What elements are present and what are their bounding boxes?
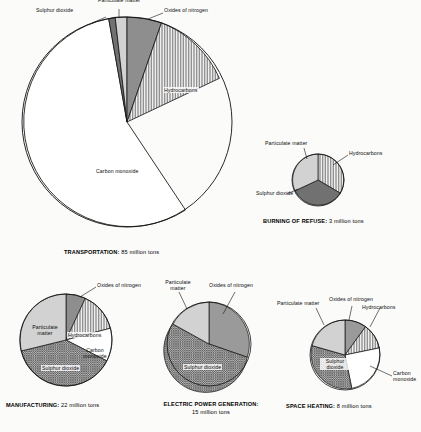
- caption-heating-title: SPACE HEATING:: [286, 403, 335, 409]
- label-carbon-monoxide: Carbon monoxide: [96, 168, 138, 174]
- label-oxides-of-nitrogen: Oxides of nitrogen: [209, 282, 253, 288]
- label-particulate-matter: Particulate matter: [277, 300, 319, 306]
- caption-burning-of-refuse: BURNING OF REFUSE: 3 million tons: [263, 218, 364, 224]
- leader-oxides-of-nitrogen: [80, 287, 96, 297]
- label-carbon-monoxide-line2: monoxide: [393, 376, 416, 382]
- leader-oxides-of-nitrogen: [349, 306, 352, 320]
- caption-burning-amount: 3 million tons: [329, 218, 364, 224]
- label-sulphur-dioxide: Sulphur dioxide: [320, 358, 350, 370]
- chart-electric-power-generation: Particulate matter Oxides of nitrogen Su…: [165, 300, 253, 388]
- leader-hydrocarbons: [333, 155, 348, 165]
- caption-burning-title: BURNING OF REFUSE:: [263, 218, 327, 224]
- label-sulphur-dioxide-line2: dioxide: [326, 364, 343, 370]
- transportation-pie: [20, 15, 234, 229]
- chart-manufacturing: Oxides of nitrogen Particulate matter Hy…: [18, 292, 114, 388]
- space-heating-pie: [308, 318, 382, 392]
- leader-hydrocarbons: [370, 308, 380, 327]
- caption-manufacturing-title: MANUFACTURING:: [6, 402, 59, 408]
- caption-transportation: TRANSPORTATION: 85 million tons: [64, 249, 159, 255]
- label-oxides-of-nitrogen: Oxides of nitrogen: [164, 7, 208, 13]
- label-hydrocarbons: Hydrocarbons: [362, 304, 396, 310]
- label-particulate-matter-line1: Particulate: [165, 279, 191, 285]
- label-particulate-matter: Particulate matter: [25, 324, 65, 336]
- manufacturing-pie: [18, 292, 114, 388]
- label-carbon-monoxide-line1: Carbon: [393, 370, 411, 376]
- label-particulate-matter: Particulate matter: [98, 0, 140, 3]
- caption-power-amount: 15 million tons: [192, 409, 230, 415]
- leader-particulate-matter: [179, 292, 187, 309]
- label-carbon-monoxide: Carbon monoxide: [80, 347, 110, 359]
- label-sulphur-dioxide: Sulphur dioxide: [36, 7, 73, 13]
- label-particulate-matter: Particulate matter: [265, 140, 307, 146]
- caption-transportation-amount: 85 million tons: [121, 249, 159, 255]
- label-sulphur-dioxide-line1: Sulphur: [326, 358, 345, 364]
- label-particulate-matter: Particulate matter: [156, 279, 200, 291]
- caption-power-title: ELECTRIC POWER GENERATION:: [164, 401, 259, 407]
- burning-of-refuse-pie: [290, 152, 346, 208]
- label-particulate-matter-line2: matter: [170, 285, 185, 291]
- chart-burning-of-refuse: Particulate matter Hydrocarbons Sulphur …: [290, 152, 346, 208]
- chart-transportation: Sulphur dioxide Particulate matter Oxide…: [20, 15, 234, 229]
- label-carbon-monoxide-line1: Carbon: [86, 347, 104, 353]
- caption-manufacturing: MANUFACTURING: 22 million tons: [6, 402, 99, 408]
- label-sulphur-dioxide: Sulphur dioxide: [256, 190, 293, 196]
- electric-power-generation-pie: [165, 300, 253, 388]
- label-hydrocarbons: Hydrocarbons: [163, 87, 199, 93]
- label-oxides-of-nitrogen: Oxides of nitrogen: [97, 282, 141, 288]
- label-carbon-monoxide: Carbon monoxide: [393, 370, 421, 382]
- caption-manufacturing-amount: 22 million tons: [61, 402, 99, 408]
- caption-heating-amount: 8 million tons: [337, 403, 372, 409]
- label-carbon-monoxide-line2: monoxide: [83, 353, 106, 359]
- chart-space-heating: Particulate matter Oxides of nitrogen Hy…: [308, 318, 382, 392]
- label-oxides-of-nitrogen: Oxides of nitrogen: [329, 296, 373, 302]
- label-sulphur-dioxide: Sulphur dioxide: [41, 365, 80, 371]
- label-particulate-matter-line1: Particulate: [32, 324, 58, 330]
- caption-transportation-title: TRANSPORTATION:: [64, 249, 120, 255]
- label-sulphur-dioxide: Sulphur dioxide: [183, 364, 222, 370]
- leader-particulate-matter: [316, 308, 324, 325]
- label-particulate-matter-line2: matter: [37, 330, 52, 336]
- caption-electric-power-generation: ELECTRIC POWER GENERATION: 15 million to…: [141, 400, 281, 416]
- label-hydrocarbons: Hydrocarbons: [349, 150, 383, 156]
- caption-space-heating: SPACE HEATING: 8 million tons: [286, 403, 372, 409]
- label-hydrocarbons: Hydrocarbons: [67, 332, 103, 338]
- leader-oxides-of-nitrogen: [148, 13, 163, 19]
